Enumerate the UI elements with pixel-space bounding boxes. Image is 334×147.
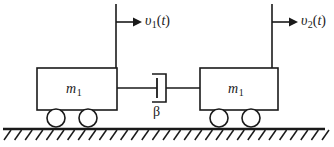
ground-hatch-tick — [205, 130, 212, 140]
ground-hatch-tick — [15, 130, 22, 140]
ground-hatch-tick — [184, 130, 191, 140]
velocity-symbol-right: υ — [301, 13, 307, 28]
velocity-indicator-right — [272, 4, 298, 68]
ground-hatch-tick — [57, 130, 64, 140]
mass-symbol-right: m — [228, 81, 238, 96]
velocity-label-left: υ1(t) — [145, 14, 170, 30]
ground-hatching — [4, 130, 329, 140]
ground-hatch-tick — [68, 130, 75, 140]
ground-hatch-tick — [152, 130, 159, 140]
mass-subscript-right: 1 — [239, 87, 244, 98]
mass-label-right: m1 — [228, 82, 244, 98]
velocity-symbol-left: υ — [145, 13, 151, 28]
ground-hatch-tick — [280, 130, 287, 140]
ground-surface — [3, 129, 329, 140]
ground-hatch-tick — [248, 130, 255, 140]
damper-assembly — [117, 74, 200, 102]
mass-symbol-left: m — [66, 81, 76, 96]
ground-hatch-tick — [131, 130, 138, 140]
ground-hatch-tick — [121, 130, 128, 140]
velocity-arrowhead-right — [289, 18, 298, 27]
wheel-left-rear — [79, 109, 97, 127]
velocity-close-paren-left: ) — [165, 13, 170, 28]
ground-hatch-tick — [36, 130, 43, 140]
wheel-left-front — [47, 109, 65, 127]
wheel-right-front — [210, 109, 228, 127]
ground-hatch-tick — [195, 130, 202, 140]
wheel-right-rear — [242, 109, 260, 127]
ground-hatch-tick — [163, 130, 170, 140]
ground-hatch-tick — [269, 130, 276, 140]
velocity-arrowhead-left — [133, 18, 142, 27]
ground-hatch-tick — [290, 130, 297, 140]
ground-hatch-tick — [216, 130, 223, 140]
mass-subscript-left: 1 — [77, 87, 82, 98]
ground-hatch-tick — [237, 130, 244, 140]
mechanical-system-diagram: m1 m1 υ1(t) υ2(t) β — [0, 0, 334, 147]
ground-hatch-tick — [174, 130, 181, 140]
ground-hatch-tick — [322, 130, 329, 140]
ground-hatch-tick — [227, 130, 234, 140]
ground-hatch-tick — [311, 130, 318, 140]
ground-hatch-tick — [301, 130, 308, 140]
ground-hatch-tick — [46, 130, 53, 140]
ground-hatch-tick — [258, 130, 265, 140]
ground-hatch-tick — [110, 130, 117, 140]
ground-hatch-tick — [99, 130, 106, 140]
ground-hatch-tick — [25, 130, 32, 140]
velocity-label-right: υ2(t) — [301, 14, 326, 30]
mass-label-left: m1 — [66, 82, 82, 98]
velocity-indicator-left — [116, 4, 142, 68]
ground-hatch-tick — [78, 130, 85, 140]
velocity-close-paren-right: ) — [321, 13, 326, 28]
ground-hatch-tick — [4, 130, 11, 140]
ground-hatch-tick — [89, 130, 96, 140]
ground-hatch-tick — [142, 130, 149, 140]
damper-label: β — [153, 105, 160, 119]
